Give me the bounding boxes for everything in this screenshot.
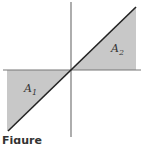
figure-caption: Figure xyxy=(2,135,42,144)
area-diagram: A1 A2 xyxy=(0,0,145,144)
